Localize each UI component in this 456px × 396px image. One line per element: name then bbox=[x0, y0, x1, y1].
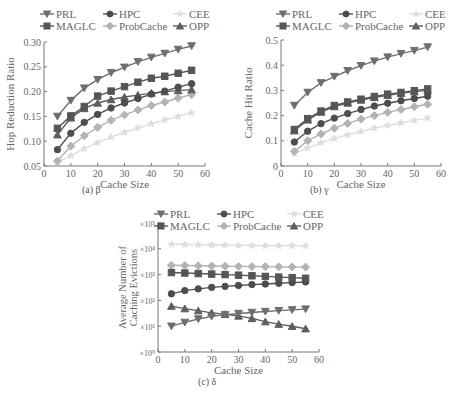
square-marker-icon bbox=[68, 113, 74, 119]
legend-label: PRL bbox=[170, 208, 190, 220]
star-marker-icon bbox=[249, 242, 256, 248]
legend-item-probcache: ProbCache bbox=[339, 20, 403, 32]
star-marker-icon bbox=[384, 122, 391, 128]
y-tick-label: 0.15 bbox=[24, 111, 42, 122]
triangle-down-marker-icon bbox=[290, 102, 298, 109]
caption-b: (b) γ bbox=[310, 184, 329, 195]
square-marker-icon bbox=[222, 271, 228, 277]
y-tick-label: 0 bbox=[273, 161, 278, 172]
circle-marker-icon bbox=[371, 103, 377, 109]
legend-label: HPC bbox=[355, 8, 376, 20]
star-marker-icon bbox=[94, 139, 101, 145]
legend-item-cee: CEE bbox=[409, 8, 446, 20]
square-marker-icon bbox=[291, 126, 297, 132]
diamond-marker-icon bbox=[161, 98, 169, 106]
diamond-marker-icon bbox=[194, 262, 202, 270]
star-marker-icon bbox=[168, 241, 175, 247]
circle-marker-icon bbox=[235, 282, 241, 288]
legend-item-opp: OPP bbox=[173, 20, 209, 32]
diamond-marker-icon bbox=[261, 263, 269, 271]
y-tick-label: ×10¹ bbox=[140, 323, 156, 332]
star-marker-icon bbox=[121, 129, 128, 135]
series-hpc bbox=[168, 279, 309, 297]
legend-label: OPP bbox=[425, 20, 445, 32]
star-marker-icon bbox=[302, 242, 309, 248]
legend-label: CEE bbox=[303, 208, 324, 220]
x-axis-label: Cache Size bbox=[214, 364, 263, 376]
diamond-marker-icon bbox=[384, 108, 392, 116]
diamond-marker-icon bbox=[235, 262, 243, 270]
square-marker-icon bbox=[182, 270, 188, 276]
circle-marker-icon bbox=[195, 286, 201, 292]
legend-label: CEE bbox=[425, 8, 446, 20]
square-marker-icon bbox=[289, 274, 295, 280]
square-marker-icon bbox=[148, 75, 154, 81]
square-marker-icon bbox=[175, 70, 181, 76]
circle-marker-icon bbox=[358, 106, 364, 112]
axes: 01020304050600.050.100.150.200.250.30 bbox=[24, 37, 211, 180]
diamond-marker-icon bbox=[275, 263, 283, 271]
diamond-marker-icon bbox=[288, 263, 296, 271]
square-marker-icon bbox=[195, 270, 201, 276]
diamond-marker-icon bbox=[167, 261, 175, 269]
square-marker-icon bbox=[208, 271, 214, 277]
star-marker-icon bbox=[331, 135, 338, 141]
square-marker-icon bbox=[384, 91, 390, 97]
square-marker-icon bbox=[168, 269, 174, 275]
x-tick-label: 0 bbox=[279, 168, 284, 179]
square-marker-icon bbox=[344, 99, 350, 105]
star-marker-icon bbox=[208, 242, 215, 248]
x-tick-label: 50 bbox=[409, 168, 419, 179]
legend-item-prl: PRL bbox=[154, 208, 190, 220]
square-marker-icon bbox=[188, 67, 194, 73]
legend-label: PRL bbox=[56, 8, 76, 20]
circle-marker-icon bbox=[221, 211, 227, 217]
x-tick-label: 50 bbox=[173, 168, 183, 179]
chart-hop-reduction-ratio: 01020304050600.050.100.150.200.250.30Cac… bbox=[0, 0, 228, 200]
star-marker-icon bbox=[371, 125, 378, 131]
square-marker-icon bbox=[318, 108, 324, 114]
legend-item-hpc: HPC bbox=[103, 8, 140, 20]
legend-label: HPC bbox=[119, 8, 140, 20]
circle-marker-icon bbox=[54, 146, 60, 152]
y-tick-label: ×10² bbox=[140, 297, 156, 306]
circle-marker-icon bbox=[424, 93, 430, 99]
triangle-down-marker-icon bbox=[357, 63, 365, 70]
y-tick-label: 0.20 bbox=[24, 86, 42, 97]
x-tick-label: 10 bbox=[303, 168, 313, 179]
y-axis-label: Average Number of bbox=[117, 245, 128, 329]
star-marker-icon bbox=[175, 113, 182, 119]
square-marker-icon bbox=[280, 23, 286, 29]
series-line bbox=[57, 113, 191, 162]
y-tick-label: 0.10 bbox=[24, 136, 42, 147]
diamond-marker-icon bbox=[330, 124, 338, 132]
y-tick-label: 0.3 bbox=[266, 85, 279, 96]
star-marker-icon bbox=[398, 119, 405, 125]
square-marker-icon bbox=[302, 275, 308, 281]
square-marker-icon bbox=[54, 125, 60, 131]
circle-marker-icon bbox=[304, 128, 310, 134]
x-tick-label: 10 bbox=[66, 168, 76, 179]
y-axis-label: Hop Reduction Ratio bbox=[4, 57, 16, 151]
circle-marker-icon bbox=[107, 11, 113, 17]
legend-item-probcache: ProbCache bbox=[103, 20, 167, 32]
diamond-marker-icon bbox=[94, 123, 102, 131]
circle-marker-icon bbox=[121, 100, 127, 106]
diamond-marker-icon bbox=[174, 94, 182, 102]
y-tick-label: 0.4 bbox=[266, 60, 279, 71]
diamond-marker-icon bbox=[397, 106, 405, 114]
star-marker-icon bbox=[235, 242, 242, 248]
square-marker-icon bbox=[44, 23, 50, 29]
circle-marker-icon bbox=[175, 84, 181, 90]
star-marker-icon bbox=[161, 116, 168, 122]
legend-item-cee: CEE bbox=[287, 208, 324, 220]
diamond-marker-icon bbox=[221, 262, 229, 270]
diamond-marker-icon bbox=[181, 262, 189, 270]
y-tick-label: ×10⁵ bbox=[140, 220, 156, 229]
star-marker-icon bbox=[411, 117, 418, 123]
star-marker-icon bbox=[275, 242, 282, 248]
legend-label: CEE bbox=[189, 8, 210, 20]
square-marker-icon bbox=[411, 87, 417, 93]
star-marker-icon bbox=[413, 11, 419, 17]
diamond-marker-icon bbox=[134, 106, 142, 114]
